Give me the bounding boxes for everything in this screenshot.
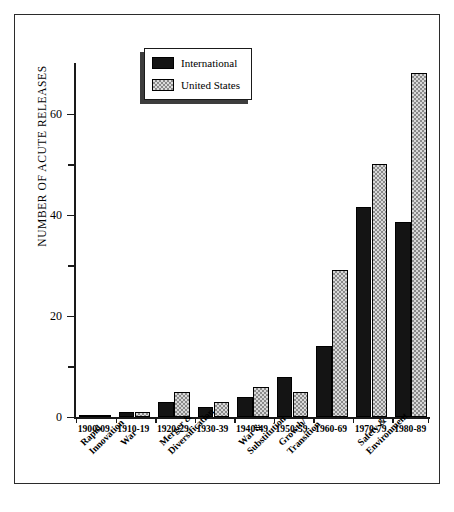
bar-1960-69-international [316,346,332,417]
bar-1910-19-united-states [135,412,151,417]
bar-1900-09-international [79,415,95,417]
bar-1980-89-united-states [411,73,427,417]
y-tick-60 [67,114,74,115]
chart-page: NUMBER OF ACUTE RELEASES 0204060 1900-09… [0,0,454,512]
y-tick-0 [67,417,74,418]
legend-label-united-states: United States [181,79,240,91]
bar-series-area [74,63,430,417]
x-tick-end [428,417,429,423]
bar-1980-89-international [395,222,411,417]
y-tick-label-20: 20 [36,308,62,323]
legend-item-international: International [152,55,237,71]
y-axis-title: NUMBER OF ACUTE RELEASES [36,46,48,266]
bar-1910-19-international [119,412,135,417]
y-tick-label-40: 40 [36,207,62,222]
black-fill-swatch-icon [152,57,174,69]
y-tick-40 [67,215,74,216]
bar-1920-29-international [158,402,174,417]
legend-item-united-states: United States [152,77,240,93]
bar-1970-79-international [356,207,372,417]
y-tick-20 [67,316,74,317]
bar-1940-49-international [237,397,253,417]
bar-1960-69-united-states [332,270,348,417]
y-tick-label-60: 60 [36,106,62,121]
y-tick-label-0: 0 [36,410,62,425]
legend-box: International United States [144,48,252,100]
dotted-fill-swatch-icon [152,79,174,91]
bar-1970-79-united-states [372,164,388,417]
bar-1950-59-international [277,377,293,417]
legend-label-international: International [181,57,237,69]
